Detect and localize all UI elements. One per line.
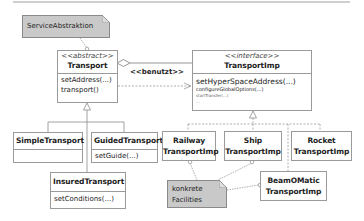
rocket-name-line1: Rocket: [292, 135, 351, 146]
transport-imp-op-configure-global-options: configureGlobalOptions(...): [196, 86, 308, 93]
ship-name-line1: Ship: [225, 135, 281, 146]
railway-name-line2: TransportImp: [163, 146, 215, 157]
class-ship-transport-imp[interactable]: Ship TransportImp: [224, 131, 282, 161]
class-rocket-transport-imp[interactable]: Rocket TransportImp: [291, 131, 352, 161]
transport-stereotype: <<abstract>>: [60, 52, 115, 61]
note-concrete-facilities: konkrete Facilities: [167, 180, 227, 208]
realization-triangle-icon: [250, 111, 257, 118]
class-transport[interactable]: <<abstract>> Transport setAddress(...) t…: [57, 50, 118, 103]
insured-transport-op-set-conditions: setConditions(...): [54, 195, 122, 205]
note-fold-corner-icon: [102, 15, 110, 23]
transport-imp-op-ellipsis: ...: [196, 99, 308, 105]
class-transport-imp[interactable]: <<interface>> TransportImp setHyperSpace…: [192, 50, 312, 111]
note-link-service-abstraction: [80, 38, 87, 48]
class-guided-transport[interactable]: GuidedTransport setGuide(...): [91, 132, 158, 163]
beamomatic-name-line1: BeamOMatic: [261, 175, 326, 186]
class-railway-transport-imp[interactable]: Railway TransportImp: [162, 131, 216, 161]
rocket-name-line2: TransportImp: [292, 146, 351, 157]
transport-imp-name: TransportImp: [195, 61, 309, 71]
transport-imp-op-set-hyperspace-address: setHyperSpaceAddress(...): [196, 77, 308, 86]
guided-transport-op-set-guide: setGuide(...): [95, 152, 154, 162]
transport-op-set-address: setAddress(...): [61, 76, 114, 86]
note-concrete-facilities-line2: Facilities: [172, 195, 222, 206]
guided-transport-name: GuidedTransport: [94, 136, 155, 146]
transport-imp-stereotype: <<interface>>: [195, 52, 309, 61]
simple-transport-name: SimpleTransport: [16, 136, 80, 146]
beamomatic-name-line2: TransportImp: [261, 186, 326, 197]
class-insured-transport[interactable]: InsuredTransport setConditions(...): [50, 172, 126, 209]
ship-name-line2: TransportImp: [225, 146, 281, 157]
railway-name-line1: Railway: [163, 135, 215, 146]
note-service-abstraction: ServiceAbstraktion: [22, 15, 110, 38]
insured-transport-name: InsuredTransport: [53, 177, 123, 187]
note-fold-corner-icon: [219, 180, 227, 188]
class-beamomatic-transport-imp[interactable]: BeamOMatic TransportImp: [260, 171, 327, 201]
aggregation-diamond-icon: [117, 60, 130, 67]
transport-name: Transport: [60, 61, 115, 71]
note-service-abstraction-text: ServiceAbstraktion: [27, 22, 93, 30]
uses-relation-label: <<benutzt>>: [130, 68, 184, 76]
note-concrete-facilities-line1: konkrete: [172, 184, 222, 195]
inheritance-triangle-icon: [84, 103, 91, 110]
class-simple-transport[interactable]: SimpleTransport: [13, 132, 83, 163]
transport-op-transport: transport(): [61, 86, 114, 96]
